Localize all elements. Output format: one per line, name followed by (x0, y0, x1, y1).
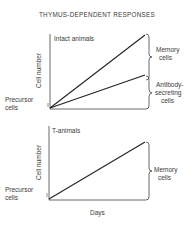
panel-label-t-animals: T-animals (52, 127, 80, 135)
bottom-panel-lines (49, 142, 145, 199)
y-axis-label-bottom: Cell number (35, 145, 43, 180)
x-axis-label: Days (90, 209, 105, 217)
memory-label-bottom: Memory (154, 166, 177, 174)
antibody-label-2: secreting (155, 89, 181, 97)
memory-bracket-bottom (146, 142, 152, 200)
memory-label-top: Memory (156, 46, 179, 54)
memory-label-bottom-2: cells (158, 174, 171, 182)
memory-bracket (146, 34, 152, 80)
precursor-label-bottom: Precursor (5, 186, 33, 194)
precursor-label-top-2: cells (5, 104, 18, 112)
precursor-label-top: Precursor (5, 96, 33, 104)
memory-label-top-2: cells (159, 54, 172, 62)
panel-label-intact: Intact animals (54, 35, 94, 43)
antibody-label-3: cells (161, 97, 174, 105)
bottom-panel-axes (49, 126, 146, 200)
y-axis-label-top: Cell number (35, 53, 43, 88)
top-panel-lines (50, 35, 145, 108)
precursor-label-bottom-2: cells (5, 194, 18, 202)
antibody-bracket (146, 76, 152, 109)
antibody-label: Antibody- (156, 81, 183, 89)
